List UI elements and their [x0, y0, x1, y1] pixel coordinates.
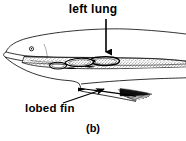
- pupil: [31, 48, 33, 50]
- figure-container: left lung lobed fin (b): [0, 0, 186, 141]
- lungfish-anatomy-illustration: [0, 0, 186, 141]
- left-lung-organ: [91, 57, 120, 65]
- gill-line: [44, 44, 47, 59]
- left-lung-label: left lung: [0, 3, 186, 15]
- left-lung-inner-shading: [94, 58, 116, 64]
- lobed-fin-pointer: [63, 89, 104, 103]
- figure-caption: (b): [0, 123, 186, 134]
- fin-upper-edge: [81, 78, 186, 84]
- snout-tip: [4, 52, 6, 57]
- lobed-fin-label: lobed fin: [25, 103, 75, 115]
- belly-to-fin: [68, 81, 79, 84]
- lobed-fin-arrow-shaft: [63, 89, 104, 103]
- lobed-fin: [78, 78, 186, 102]
